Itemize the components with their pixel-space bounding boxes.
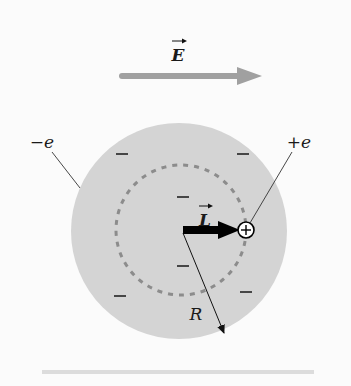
electron-charge-label: −e xyxy=(30,132,54,152)
electron-charge-leader xyxy=(52,152,80,188)
nucleus-charge-label: +e xyxy=(287,132,311,152)
svg-text:L: L xyxy=(198,210,211,230)
electric-field-arrow xyxy=(122,67,262,85)
dipole-diagram: E R L −e +e xyxy=(0,0,351,386)
electric-field-label: E xyxy=(171,39,187,66)
nucleus-positive-charge xyxy=(238,222,254,238)
bottom-divider-line xyxy=(42,370,314,374)
radius-label: R xyxy=(189,304,203,324)
svg-text:E: E xyxy=(171,45,186,65)
